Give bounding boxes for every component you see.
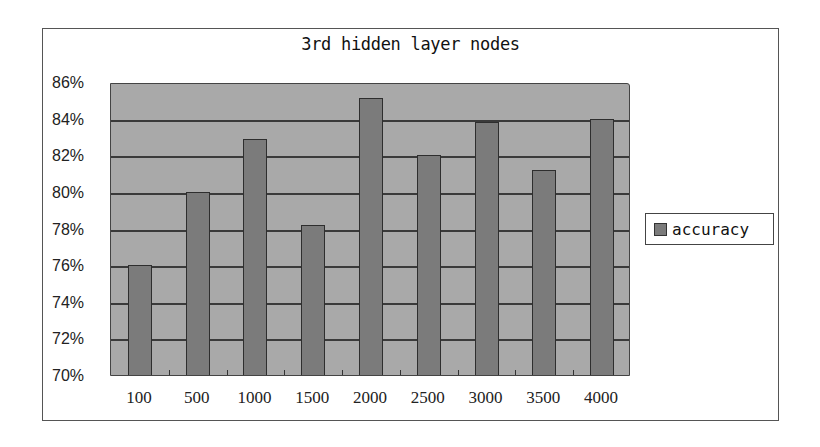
x-tick-label: 2500 xyxy=(399,388,457,408)
x-tick xyxy=(169,370,170,375)
x-tick-label: 500 xyxy=(168,388,226,408)
x-tick xyxy=(573,370,574,375)
bar xyxy=(417,155,441,375)
y-tick-label: 76% xyxy=(52,258,98,274)
x-tick-label: 1000 xyxy=(225,388,283,408)
y-tick-label: 80% xyxy=(52,185,98,201)
bar xyxy=(128,265,152,375)
y-tick-label: 74% xyxy=(52,295,98,311)
x-tick-label: 100 xyxy=(110,388,168,408)
x-tick-label: 2000 xyxy=(341,388,399,408)
y-tick-label: 86% xyxy=(52,75,98,91)
x-tick xyxy=(284,370,285,375)
x-tick xyxy=(342,370,343,375)
x-tick xyxy=(458,370,459,375)
x-tick-label: 1500 xyxy=(283,388,341,408)
x-tick-label: 4000 xyxy=(572,388,630,408)
x-tick-label: 3000 xyxy=(457,388,515,408)
legend: accuracy xyxy=(645,213,774,245)
x-tick xyxy=(400,370,401,375)
bar xyxy=(532,170,556,375)
x-tick xyxy=(515,370,516,375)
legend-swatch-icon xyxy=(654,223,667,236)
plot-area xyxy=(110,83,630,376)
bar xyxy=(359,98,383,375)
bar xyxy=(301,225,325,375)
bar xyxy=(475,122,499,375)
y-tick-label: 84% xyxy=(52,112,98,128)
y-tick-label: 78% xyxy=(52,222,98,238)
x-tick-label: 3500 xyxy=(514,388,572,408)
bar xyxy=(186,192,210,375)
y-tick-label: 82% xyxy=(52,148,98,164)
x-tick xyxy=(227,370,228,375)
y-tick-label: 70% xyxy=(52,368,98,384)
bar xyxy=(590,119,614,375)
y-tick-label: 72% xyxy=(52,331,98,347)
bar xyxy=(243,139,267,375)
legend-label: accuracy xyxy=(672,220,749,239)
chart-title: 3rd hidden layer nodes xyxy=(42,34,779,54)
